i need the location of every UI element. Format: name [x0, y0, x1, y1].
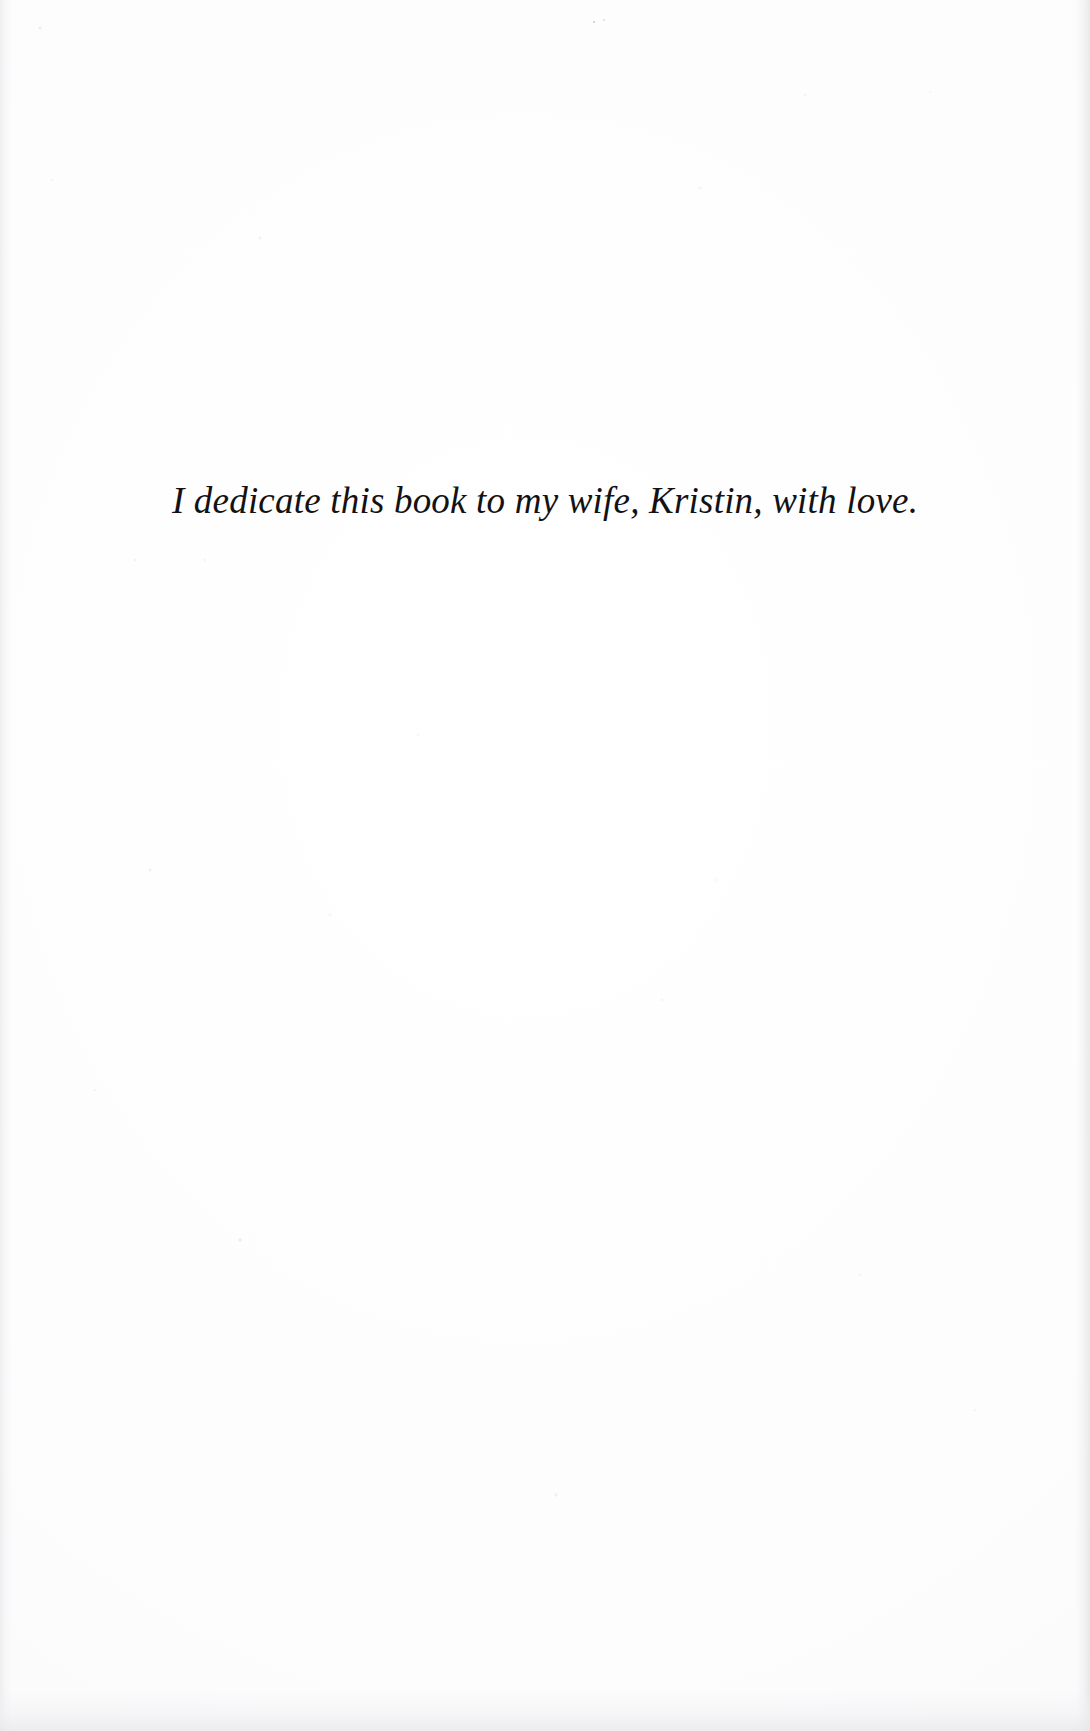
paper-tint-overlay	[0, 0, 1090, 1731]
bottom-edge-shadow	[0, 1691, 1090, 1731]
left-edge-shadow	[0, 0, 12, 1731]
scan-speckle-overlay	[0, 0, 1090, 1731]
right-edge-shadow	[1076, 0, 1090, 1731]
book-page: I dedicate this book to my wife, Kristin…	[0, 0, 1090, 1731]
dedication-block: I dedicate this book to my wife, Kristin…	[0, 441, 1090, 561]
dedication-text: I dedicate this book to my wife, Kristin…	[172, 478, 918, 524]
